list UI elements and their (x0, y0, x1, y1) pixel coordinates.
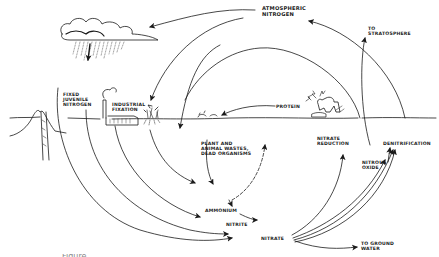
moose-icon (306, 91, 344, 117)
cloud-rain-icon (61, 18, 158, 60)
label-nitrous-oxide: NITROUS OXIDE (362, 160, 387, 170)
label-protein: PROTEIN (276, 104, 300, 109)
label-nitrite: NITRITE (226, 222, 248, 227)
ground-line (10, 117, 436, 119)
nitrogen-cycle-diagram: ATMOSPHERIC NITROGEN TO STRATOSPHERE FIX… (0, 0, 439, 257)
label-atmospheric-nitrogen: ATMOSPHERIC NITROGEN (262, 5, 306, 17)
label-ammonium: AMMONIUM (205, 208, 237, 213)
label-plant-animal-wastes: PLANT and ANIMAL WASTES, DEAD ORGANISMS (201, 141, 251, 156)
label-nitrate: NITRATE (261, 236, 284, 241)
label-nitrate-reduction: NITRATE REDUCTION (317, 136, 349, 146)
plant-debris-icon (198, 111, 217, 117)
plant-icon (144, 105, 160, 125)
label-fixed-juvenile-nitrogen: FIXED JUVENILE NITROGEN (63, 92, 91, 107)
label-denitrification: DENITRIFICATION (383, 141, 431, 146)
diagram-drawing (0, 0, 439, 257)
label-to-ground-water: TO GROUND WATER (361, 241, 394, 251)
label-to-stratosphere: TO STRATOSPHERE (368, 26, 411, 36)
label-industrial-fixation: INDUSTRIAL FIXATION (112, 102, 145, 112)
